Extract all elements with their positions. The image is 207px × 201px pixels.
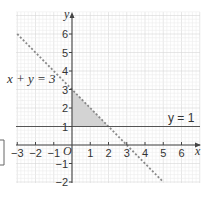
bracket-edge [0,140,4,165]
x-tick-label: −2 [29,147,42,159]
y-tick-label: 3 [62,84,68,96]
x-tick-label: −3 [11,147,24,159]
x-tick-label: 5 [160,147,166,159]
y-axis-arrow-icon [70,12,75,18]
graph-figure: −3−2−1123456−2−1123456 x + y = 3 y = 1 x… [0,0,207,201]
y-tick-label: −1 [55,158,68,170]
coordinate-plane: −3−2−1123456−2−1123456 x + y = 3 y = 1 x… [0,0,207,201]
label-x-plus-y-equals-3: x + y = 3 [6,71,56,86]
y-tick-label: 1 [62,121,68,133]
origin-label: O [63,144,72,158]
y-tick-label: −2 [55,176,68,188]
label-y-equals-1: y = 1 [168,111,195,125]
y-tick-label: 2 [62,102,68,114]
x-tick-label: 2 [105,147,111,159]
y-axis-label: y [63,7,70,21]
x-tick-label: 6 [178,147,184,159]
y-tick-label: 4 [62,65,68,77]
y-tick-label: 6 [62,28,68,40]
x-tick-label: 4 [142,147,148,159]
x-tick-label: 1 [87,147,93,159]
y-tick-label: 5 [62,47,68,59]
x-axis-label: x [194,144,201,158]
x-tick-label: 3 [124,147,130,159]
